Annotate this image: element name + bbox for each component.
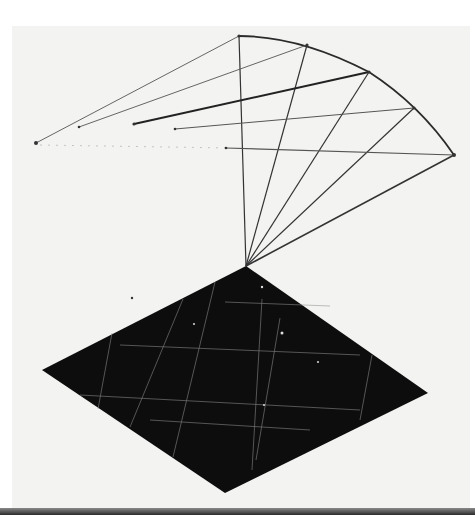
- fan-arc: [239, 36, 454, 155]
- guide-dotted-line: [40, 145, 230, 148]
- drawing: [0, 0, 475, 515]
- black-diamond: [42, 266, 428, 493]
- bottom-dark-strip: [0, 508, 475, 515]
- end-marks: [34, 34, 456, 299]
- converging-lines: [36, 36, 454, 155]
- fan-rays: [239, 36, 454, 266]
